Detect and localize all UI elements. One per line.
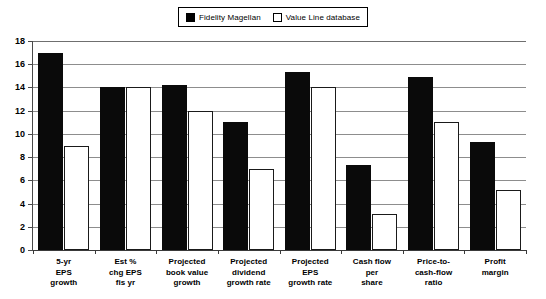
bar-fidelity-magellan <box>346 165 371 250</box>
bar-value-line-database <box>64 146 89 251</box>
bar-fidelity-magellan <box>162 85 187 250</box>
category-label-line: cash-flow <box>403 268 465 279</box>
bar-value-line-database <box>249 169 274 250</box>
bar-value-line-database <box>311 87 336 250</box>
x-axis-tick-mark <box>218 250 219 254</box>
y-axis-tick-label: 14 <box>0 83 25 92</box>
category-label-line: growth rate <box>218 278 280 289</box>
category-label-line: growth <box>156 278 218 289</box>
y-axis-tick-label: 2 <box>0 223 25 232</box>
x-axis-tick-mark <box>33 250 34 254</box>
legend-entry-fidelity-magellan: Fidelity Magellan <box>186 13 261 22</box>
category-label-line: Price-to- <box>403 257 465 268</box>
category-label-line: Projected <box>280 257 342 268</box>
x-axis-tick-mark <box>403 250 404 254</box>
category-label-line: per <box>341 268 403 279</box>
y-axis-tick-label: 12 <box>0 107 25 116</box>
legend-entry-value-line-database: Value Line database <box>273 13 360 22</box>
bar-fidelity-magellan <box>38 53 63 250</box>
category-label-line: EPS <box>33 268 95 279</box>
category-label-line: Est % <box>95 257 157 268</box>
category-label-line: EPS <box>280 268 342 279</box>
chart-legend: Fidelity Magellan Value Line database <box>178 7 368 27</box>
x-axis-tick-mark <box>341 250 342 254</box>
category-label-line: growth <box>33 278 95 289</box>
x-axis-category-label: 5-yrEPSgrowth <box>33 257 95 289</box>
category-label-line: Profit <box>464 257 526 268</box>
x-axis-category-label: Profitmargin <box>464 257 526 278</box>
category-label-line: Projected <box>156 257 218 268</box>
category-label-line: margin <box>464 268 526 279</box>
x-axis-category-label: ProjectedEPSgrowth rate <box>280 257 342 289</box>
plot-area <box>33 41 526 250</box>
x-axis-category-label: Est %chg EPSfis yr <box>95 257 157 289</box>
category-label-line: book value <box>156 268 218 279</box>
bar-value-line-database <box>372 214 397 250</box>
x-axis-tick-mark <box>280 250 281 254</box>
y-axis-tick-label: 6 <box>0 176 25 185</box>
category-label-line: 5-yr <box>33 257 95 268</box>
legend-swatch-filled-icon <box>186 13 195 22</box>
x-axis-tick-mark <box>156 250 157 254</box>
legend-label-fidelity-magellan: Fidelity Magellan <box>199 13 261 22</box>
y-axis-tick-label: 10 <box>0 130 25 139</box>
bar-fidelity-magellan <box>100 87 125 250</box>
x-axis-tick-mark <box>526 250 527 254</box>
x-axis-category-label: Projecteddividendgrowth rate <box>218 257 280 289</box>
bar-value-line-database <box>188 111 213 250</box>
bar-chart: 024681012141618 5-yrEPSgrowthEst %chg EP… <box>0 36 546 299</box>
bar-value-line-database <box>496 190 521 250</box>
bar-fidelity-magellan <box>408 77 433 250</box>
category-label-line: dividend <box>218 268 280 279</box>
x-axis-category-label: Cash flowpershare <box>341 257 403 289</box>
bar-fidelity-magellan <box>285 72 310 250</box>
x-axis-tick-mark <box>95 250 96 254</box>
category-label-line: growth rate <box>280 278 342 289</box>
y-axis-tick-label: 8 <box>0 153 25 162</box>
category-label-line: Projected <box>218 257 280 268</box>
category-label-line: fis yr <box>95 278 157 289</box>
y-axis-tick-label: 16 <box>0 60 25 69</box>
bar-value-line-database <box>434 122 459 250</box>
legend-label-value-line-database: Value Line database <box>286 13 360 22</box>
category-label-line: Cash flow <box>341 257 403 268</box>
category-label-line: share <box>341 278 403 289</box>
y-axis-tick-label: 18 <box>0 37 25 46</box>
x-axis-category-label: Projectedbook valuegrowth <box>156 257 218 289</box>
y-axis-tick-label: 0 <box>0 246 25 255</box>
bar-fidelity-magellan <box>223 122 248 250</box>
category-label-line: ratio <box>403 278 465 289</box>
x-axis-category-label: Price-to-cash-flowratio <box>403 257 465 289</box>
bar-value-line-database <box>126 87 151 250</box>
y-axis-tick-label: 4 <box>0 200 25 209</box>
bar-fidelity-magellan <box>470 142 495 250</box>
legend-swatch-hollow-icon <box>273 13 282 22</box>
x-axis-tick-mark <box>464 250 465 254</box>
category-label-line: chg EPS <box>95 268 157 279</box>
